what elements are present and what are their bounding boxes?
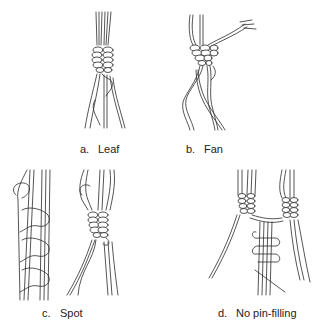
caption-c-label: Spot xyxy=(60,307,83,319)
fan-diagram xyxy=(183,15,256,130)
bobbin-lace-illustration xyxy=(0,0,321,333)
caption-b-letter: b. xyxy=(186,143,204,155)
caption-b: b.Fan xyxy=(186,143,223,155)
caption-d: d.No pin-filling xyxy=(218,307,297,319)
caption-c: c.Spot xyxy=(42,307,83,319)
caption-a-label: Leaf xyxy=(98,143,119,155)
leaf-diagram xyxy=(85,12,125,128)
caption-a: a.Leaf xyxy=(80,143,119,155)
spot-diagram xyxy=(13,170,118,300)
caption-a-letter: a. xyxy=(80,143,98,155)
caption-d-label: No pin-filling xyxy=(236,307,297,319)
caption-b-label: Fan xyxy=(204,143,223,155)
caption-c-letter: c. xyxy=(42,307,60,319)
no-pin-filling-diagram xyxy=(209,170,310,295)
caption-d-letter: d. xyxy=(218,307,236,319)
